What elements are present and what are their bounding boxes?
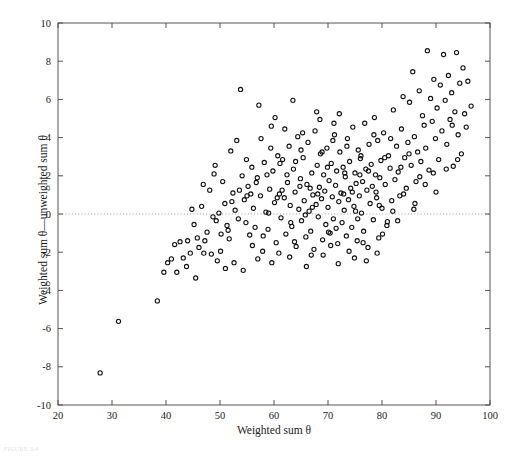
data-point [178,240,182,244]
data-point [407,152,411,156]
x-tick-label: 40 [161,410,172,421]
data-point [288,203,292,207]
data-point [294,159,298,163]
data-point [275,196,279,200]
data-point [271,169,275,173]
data-point [315,163,319,167]
data-point [340,220,344,224]
data-point [370,184,374,188]
data-point [317,185,321,189]
data-point [309,229,313,233]
data-point [305,182,309,186]
data-point [213,163,217,167]
data-point [416,150,420,154]
data-point [394,144,398,148]
data-point [205,230,209,234]
data-point [298,184,302,188]
data-point [393,178,397,182]
data-point [323,189,327,193]
data-point [372,133,376,137]
data-point [396,170,400,174]
data-point [364,259,368,263]
data-point [437,157,441,161]
data-point [188,251,192,255]
data-point [240,174,244,178]
data-point [466,79,470,83]
data-point [293,190,297,194]
data-point [461,66,465,70]
data-point [399,127,403,131]
data-point [314,202,318,206]
data-point [299,219,303,223]
data-point [365,188,369,192]
data-point [352,256,356,260]
data-point [208,188,212,192]
data-point [261,249,265,253]
data-point [337,199,341,203]
data-point [431,171,435,175]
data-point [464,125,468,129]
data-point [367,142,371,146]
data-point [359,211,363,215]
data-point [329,243,333,247]
data-point [456,133,460,137]
data-point [402,192,406,196]
data-point [366,245,370,249]
data-point [277,251,281,255]
data-point [256,257,260,261]
data-point [190,207,194,211]
data-point [326,205,330,209]
data-point [308,186,312,190]
data-point [245,194,249,198]
data-point [356,148,360,152]
data-point [237,188,241,192]
data-point [214,219,218,223]
data-point [368,201,372,205]
data-point [327,178,331,182]
data-point [345,136,349,140]
x-tick-label: 90 [431,410,442,421]
data-point [404,186,408,190]
data-point [251,206,255,210]
data-point [355,239,359,243]
data-point [454,51,458,55]
data-point [303,213,307,217]
data-point [352,204,356,208]
data-point [301,156,305,160]
data-point [244,220,248,224]
data-point [411,70,415,74]
data-point [444,167,448,171]
data-point [280,188,284,192]
data-point [310,205,314,209]
data-point [388,166,392,170]
data-point [403,156,407,160]
data-point [448,117,452,121]
data-point [374,190,378,194]
data-point [304,235,308,239]
data-point [372,115,376,119]
data-point [414,179,418,183]
data-point [406,140,410,144]
data-point [347,249,351,253]
data-point [350,225,354,229]
data-point [312,247,316,251]
data-point [363,121,367,125]
data-point [235,138,239,142]
data-point [200,204,204,208]
data-point [427,168,431,172]
plot-canvas: 2030405060708090100-10-8-6-4-20246810 [0,0,518,459]
data-point [358,173,362,177]
data-point [297,207,301,211]
data-point [186,239,190,243]
data-point [162,270,166,274]
data-point [446,73,450,77]
data-point [424,146,428,150]
data-point [396,219,400,223]
data-point [262,160,266,164]
data-point [291,167,295,171]
data-point [288,255,292,259]
data-point [463,112,467,116]
data-point [238,87,242,91]
data-point [309,253,313,257]
data-point [329,161,333,165]
